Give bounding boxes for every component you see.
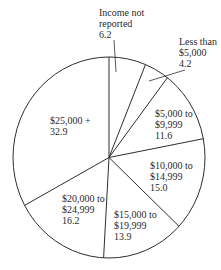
label-value: 11.6 (155, 130, 193, 141)
label-line: reported (99, 18, 144, 29)
label-value: 32.9 (50, 126, 91, 137)
label-value: 4.2 (179, 58, 217, 69)
label-value: 6.2 (99, 29, 144, 40)
label-line: $25,000 + (50, 115, 91, 126)
label-value: 15.0 (150, 182, 193, 193)
label-line: $5,000 (179, 47, 217, 58)
label-line: $19,999 (114, 220, 157, 231)
label-line: $20,000 to (62, 193, 105, 204)
label-less-than-5000: Less than $5,000 4.2 (179, 36, 217, 69)
label-value: 13.9 (114, 231, 157, 242)
label-15000-to-19999: $15,000 to $19,999 13.9 (114, 209, 157, 242)
label-25000-plus: $25,000 + 32.9 (50, 115, 91, 137)
label-line: $14,999 (150, 171, 193, 182)
label-line: $15,000 to (114, 209, 157, 220)
label-line: Income not (99, 7, 144, 18)
label-value: 16.2 (62, 215, 105, 226)
label-income-not-reported: Income not reported 6.2 (99, 7, 144, 40)
label-line: $9,999 (155, 119, 193, 130)
label-20000-to-24999: $20,000 to $24,999 16.2 (62, 193, 105, 226)
label-line: $24,999 (62, 204, 105, 215)
label-line: Less than (179, 36, 217, 47)
pie-slices (13, 57, 205, 258)
label-line: $5,000 to (155, 108, 193, 119)
label-10000-to-14999: $10,000 to $14,999 15.0 (150, 160, 193, 193)
label-5000-to-9999: $5,000 to $9,999 11.6 (155, 108, 193, 141)
label-line: $10,000 to (150, 160, 193, 171)
